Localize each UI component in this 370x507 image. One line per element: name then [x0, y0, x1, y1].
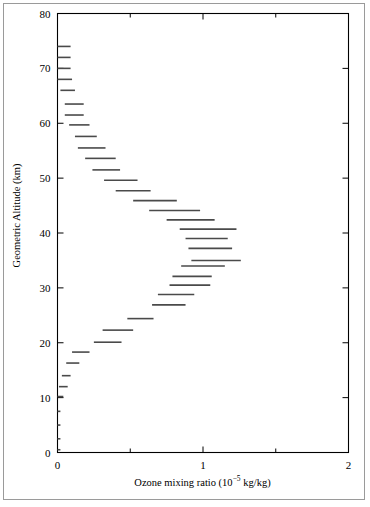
y-axis-tick-label: 0 — [45, 447, 51, 459]
x-axis-label-exponent: −5 — [233, 474, 241, 483]
figure-container: 01020304050607080012 Geometric Altitude … — [0, 0, 370, 507]
x-axis-label-text-after: kg/kg) — [241, 477, 271, 488]
plot-frame — [58, 14, 349, 453]
x-axis-tick-label: 0 — [55, 459, 61, 471]
y-axis-tick-label: 60 — [40, 117, 52, 129]
y-axis-label: Geometric Altitude (km) — [11, 146, 22, 286]
x-axis-tick-label: 1 — [200, 459, 206, 471]
y-axis-tick-label: 50 — [40, 172, 52, 184]
y-axis-tick-label: 70 — [40, 62, 52, 74]
ozone-profile-chart: 01020304050607080012 — [0, 0, 370, 507]
x-axis-label-text-before: Ozone mixing ratio (10 — [134, 477, 232, 488]
y-axis-tick-label: 20 — [40, 337, 52, 349]
x-axis-label: Ozone mixing ratio (10−5 kg/kg) — [57, 474, 348, 488]
y-axis-tick-label: 10 — [40, 392, 52, 404]
y-axis-tick-label: 40 — [40, 227, 52, 239]
y-axis-tick-label: 80 — [40, 8, 52, 20]
x-axis-tick-label: 2 — [346, 459, 352, 471]
y-axis-tick-label: 30 — [40, 282, 52, 294]
data-series-ozone-profile — [58, 46, 241, 449]
